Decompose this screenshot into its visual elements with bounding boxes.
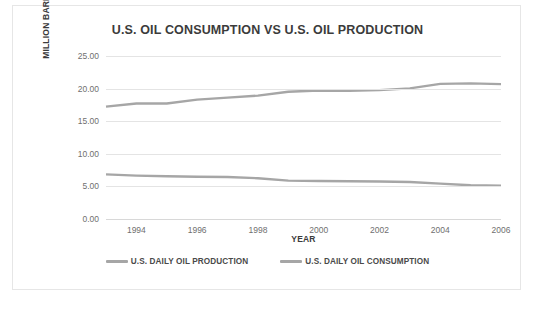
y-axis-tick-label: 5.00 (82, 181, 99, 191)
chart-card: U.S. OIL CONSUMPTION VS U.S. OIL PRODUCT… (12, 5, 521, 290)
plot-area: 25.0020.0015.0010.005.000.00 19941996199… (106, 56, 501, 219)
chart-title: U.S. OIL CONSUMPTION VS U.S. OIL PRODUCT… (13, 23, 522, 37)
y-axis-title: MILLION BARRELS/DAY (41, 0, 51, 73)
gridline (106, 121, 501, 122)
y-axis-tick-label: 0.00 (82, 214, 99, 224)
legend-item[interactable]: U.S. DAILY OIL CONSUMPTION (280, 257, 429, 266)
gridline (106, 56, 501, 57)
series-line (106, 174, 501, 185)
legend-label: U.S. DAILY OIL CONSUMPTION (305, 257, 429, 266)
legend-line-swatch (106, 260, 128, 263)
y-axis-tick-label: 10.00 (78, 149, 99, 159)
chart-legend: U.S. DAILY OIL PRODUCTIONU.S. DAILY OIL … (13, 257, 522, 266)
x-axis-line (106, 219, 501, 220)
legend-line-swatch (280, 260, 302, 263)
chart-screenshot: U.S. OIL CONSUMPTION VS U.S. OIL PRODUCT… (0, 0, 536, 311)
gridline (106, 186, 501, 187)
gridline (106, 89, 501, 90)
x-axis-title: YEAR (106, 234, 501, 244)
legend-item[interactable]: U.S. DAILY OIL PRODUCTION (106, 257, 248, 266)
series-lines (106, 56, 501, 219)
y-axis-tick-label: 15.00 (78, 116, 99, 126)
series-line (106, 83, 501, 106)
y-axis-tick-label: 20.00 (78, 84, 99, 94)
legend-label: U.S. DAILY OIL PRODUCTION (131, 257, 248, 266)
y-axis-tick-label: 25.00 (78, 51, 99, 61)
gridline (106, 154, 501, 155)
y-axis-title-label: MILLION BARRELS/DAY (41, 0, 51, 59)
